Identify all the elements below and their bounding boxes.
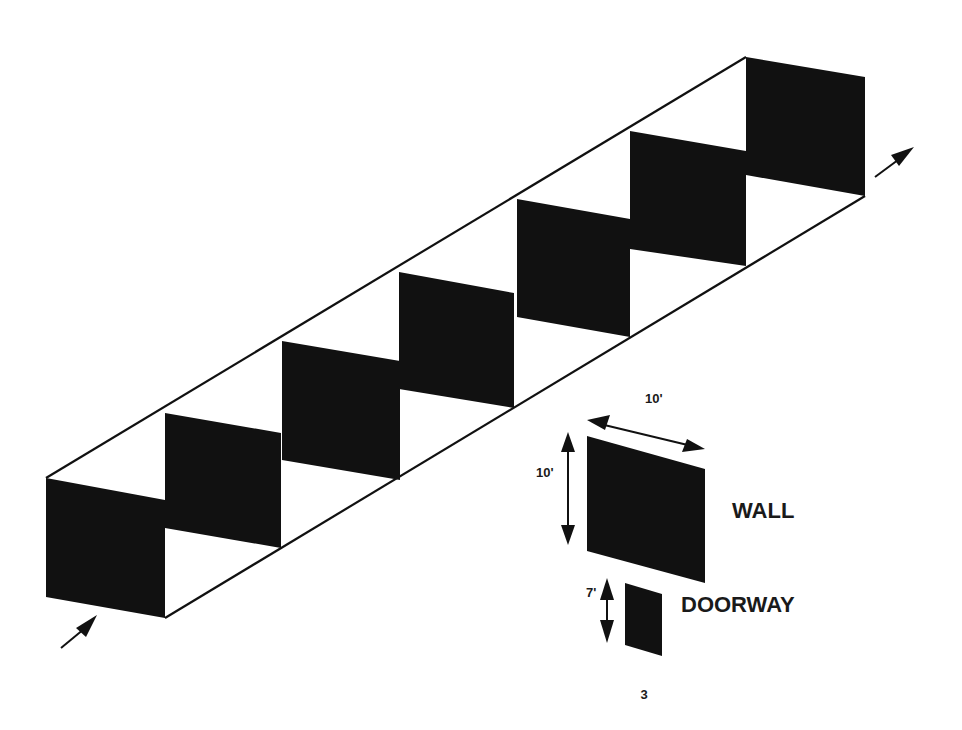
legend-wall-height-label: 10' <box>536 465 554 480</box>
wall-panel-4 <box>399 272 514 408</box>
legend-wall-width-label: 10' <box>645 391 663 406</box>
legend-doorway-label: DOORWAY <box>681 592 795 617</box>
legend-wall-label: WALL <box>732 498 794 523</box>
arrow-out-icon <box>875 147 914 177</box>
legend-doorway-height-arrow-icon <box>600 578 614 643</box>
wall-panel-3 <box>282 341 400 480</box>
wall-panel-1 <box>46 478 165 618</box>
wall-panel-2 <box>165 413 281 548</box>
legend-doorway-height-label: 7' <box>586 585 596 600</box>
page-number: 3 <box>640 687 647 702</box>
corridor-bottom-edge <box>165 196 865 618</box>
legend-wall: 10' 10' WALL <box>536 391 794 583</box>
legend-doorway: 7' DOORWAY <box>586 578 795 656</box>
wall-panel-6 <box>630 131 746 266</box>
arrow-in-icon <box>61 615 97 648</box>
wall-panel-5 <box>517 199 630 337</box>
wall-panel-7 <box>746 57 865 196</box>
legend-doorway-swatch <box>625 583 662 656</box>
corridor-diagram: 10' 10' WALL 7' DOORWAY 3 <box>0 0 962 730</box>
legend-wall-height-arrow-icon <box>561 432 575 545</box>
wall-panels <box>46 57 865 618</box>
legend-wall-swatch <box>587 436 705 583</box>
